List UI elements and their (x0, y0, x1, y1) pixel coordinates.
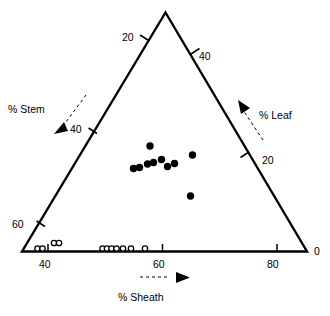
data-point-open (120, 246, 125, 251)
stem-arrow-head (54, 122, 68, 134)
filled-circle-series (130, 142, 196, 199)
data-point-filled (136, 164, 143, 171)
axis-title-leaf: % Leaf (259, 110, 292, 121)
axis-title-sheath: % Sheath (118, 292, 164, 303)
tick-label-sheath-80: 80 (267, 259, 279, 270)
tick-label-stem-40: 40 (70, 124, 82, 135)
tick-label-sheath-60: 60 (153, 259, 165, 270)
axis-tick-marks (37, 35, 278, 252)
tick-label-leaf-20: 20 (262, 155, 274, 166)
data-point-open (56, 240, 61, 245)
data-point-filled (158, 156, 165, 163)
tick-label-leaf-40: 40 (199, 51, 211, 62)
stem-arrow-line (63, 95, 86, 126)
tick-label-leaf-0: 0 (314, 246, 320, 257)
data-point-open (40, 246, 45, 251)
ternary-plot-figure: % Stem % Leaf % Sheath 20 40 60 40 20 0 … (0, 0, 330, 316)
data-point-filled (150, 159, 157, 166)
data-point-filled (187, 192, 194, 199)
open-circle-series (35, 240, 148, 251)
axis-title-stem: % Stem (8, 104, 45, 115)
triangle-outline (22, 13, 307, 252)
data-point-filled (146, 142, 153, 149)
data-point-open (114, 246, 119, 251)
tick-label-stem-20: 20 (122, 32, 134, 43)
data-point-open (128, 246, 133, 251)
data-point-filled (164, 163, 171, 170)
data-point-filled (189, 151, 196, 158)
sheath-arrow-head (176, 272, 190, 283)
tick-label-sheath-40: 40 (39, 259, 51, 270)
leaf-arrow-head (238, 100, 250, 114)
data-point-open (142, 246, 147, 251)
tick-label-stem-60: 60 (12, 219, 24, 230)
data-point-filled (171, 160, 178, 167)
